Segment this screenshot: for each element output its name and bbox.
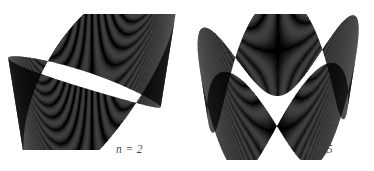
figure-mobius-n2 [8,14,180,150]
band-surface-2 [8,14,180,150]
figure-label-n2: n = 2 [116,143,143,155]
figure-mobius-n5 [194,14,362,160]
figure-label-n5: n = 5 [306,143,333,155]
band-surface-5 [194,14,362,160]
figure-page: n = 2 n = 5 [0,0,374,171]
